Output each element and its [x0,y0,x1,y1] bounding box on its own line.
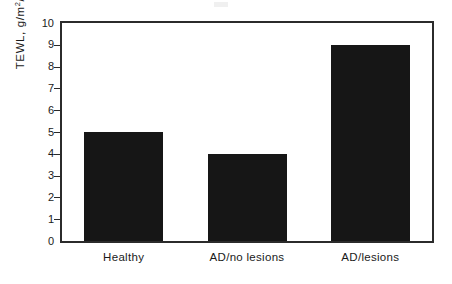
x-axis-tick-label: Healthy [62,250,185,264]
y-axis-tick-label: 0 [36,236,54,247]
y-axis-tick-label: 5 [36,127,54,138]
y-axis-tick-label: 10 [36,18,54,29]
scan-artifact [214,2,228,7]
x-axis-tick-label: AD/lesions [309,250,432,264]
bar-chart: TEWL, g/m2/h 012345678910 HealthyAD/no l… [0,0,452,284]
y-axis-title: TEWL, g/m2/h [13,0,31,96]
y-axis-tick-label: 9 [36,39,54,50]
y-axis-tick-label: 8 [36,61,54,72]
y-axis-tick-label: 7 [36,83,54,94]
y-axis-title-prefix: TEWL, g/m [14,6,26,69]
y-axis-title-exponent: 2 [13,2,22,7]
y-axis-tick-label: 4 [36,148,54,159]
x-axis-tick-label: AD/no lesions [185,250,308,264]
y-axis-tick-label: 2 [36,192,54,203]
y-axis-tick-labels: 012345678910 [36,21,54,243]
bar [84,132,163,241]
plot-area [62,23,432,241]
y-axis-title-suffix: /h [14,0,26,2]
y-axis-tick-label: 1 [36,214,54,225]
bar [331,45,410,241]
y-axis-tick-label: 3 [36,170,54,181]
x-axis-tick-labels: HealthyAD/no lesionsAD/lesions [60,250,434,270]
bar [208,154,287,241]
y-axis-tick-label: 6 [36,105,54,116]
